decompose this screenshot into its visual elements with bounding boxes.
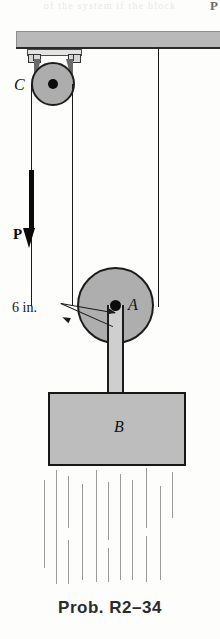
force-p-arrow-shaft xyxy=(29,170,34,232)
hatch-line xyxy=(146,536,147,582)
hatch-line xyxy=(146,468,147,528)
scan-remnant-right: P xyxy=(210,0,218,14)
pulley-c-axle-dot xyxy=(48,79,58,89)
hatch-line xyxy=(108,482,109,540)
cable-middle-segment xyxy=(72,84,74,306)
block-b: B xyxy=(48,392,186,466)
pulley-a-label: A xyxy=(128,296,138,314)
hatch-line xyxy=(82,484,83,580)
pulley-a-to-block-b-stem xyxy=(107,305,124,395)
hatch-line xyxy=(44,480,45,568)
hatch-line xyxy=(108,548,109,582)
mechanics-pulley-figure: of the system if the block P C P A 6 in.… xyxy=(0,0,220,639)
pulley-c-label: C xyxy=(14,76,25,94)
cable-right-segment xyxy=(158,47,160,307)
force-p-label: P xyxy=(13,226,22,243)
ceiling-beam xyxy=(16,31,220,48)
force-p-arrow-head xyxy=(23,228,35,248)
radius-leader-arrowhead-lower xyxy=(61,315,71,324)
hatch-line xyxy=(172,472,173,518)
hatch-line xyxy=(56,470,57,584)
figure-caption: Prob. R2–34 xyxy=(0,598,220,618)
radius-dimension-label: 6 in. xyxy=(12,300,37,316)
hatch-line xyxy=(160,486,161,580)
block-b-label: B xyxy=(50,418,188,436)
radius-leader-arrowhead-upper xyxy=(108,308,117,315)
hatch-line xyxy=(68,540,69,584)
hatch-line xyxy=(96,470,97,582)
hatch-line xyxy=(68,476,69,528)
scan-remnant-text: of the system if the block xyxy=(0,0,220,12)
hatch-line xyxy=(120,474,121,580)
hatch-line xyxy=(132,480,133,580)
ground-hatch-lines xyxy=(0,468,220,588)
